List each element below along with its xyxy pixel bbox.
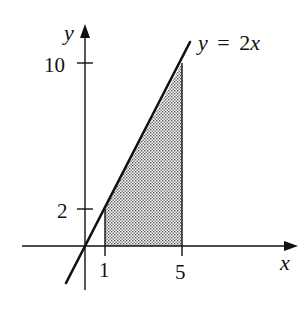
curve-label-eq: = [217, 30, 229, 55]
curve-label-rhs-num: 2 [239, 30, 250, 55]
y-axis-arrow-icon [80, 24, 90, 38]
x-axis-label: x [279, 250, 290, 275]
curve-label-lhs: y [196, 30, 208, 55]
y-axis-label: y [62, 20, 74, 45]
x-tick-label-5: 5 [175, 260, 186, 284]
y-tick-label-10: 10 [44, 53, 65, 77]
curve-label: y = 2x [196, 30, 260, 55]
y-tick-label-2: 2 [57, 199, 68, 223]
x-tick-label-1: 1 [99, 258, 110, 282]
shaded-region [105, 63, 182, 246]
curve-label-rhs-var: x [249, 30, 260, 55]
integral-diagram: y 10 2 1 5 x y = 2x [0, 0, 304, 312]
